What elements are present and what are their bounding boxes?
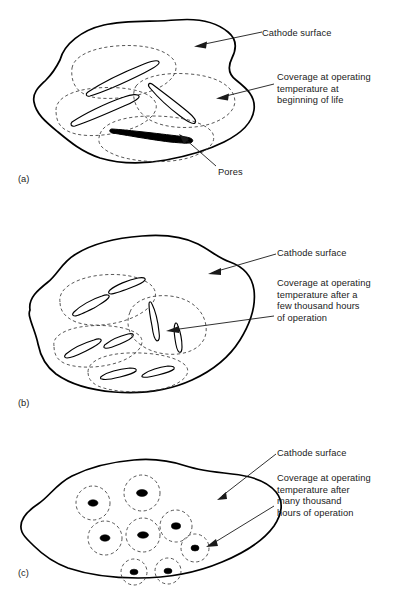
- panel-tag-a: (a): [18, 174, 29, 184]
- pore-dot: [171, 523, 180, 529]
- pore-dot: [137, 490, 148, 497]
- pore-dot: [130, 569, 138, 575]
- label-cathode-surface: Cathode surface: [277, 448, 346, 460]
- pore-dot: [164, 568, 172, 574]
- cathode-surface-figure: Cathode surface Coverage at operating te…: [0, 0, 401, 603]
- panel-a: Cathode surface Coverage at operating te…: [0, 0, 401, 200]
- label-pores: Pores: [218, 167, 243, 179]
- label-cathode-surface: Cathode surface: [262, 28, 331, 40]
- label-cathode-surface: Cathode surface: [277, 248, 346, 260]
- panel-tag-c: (c): [18, 568, 29, 578]
- label-coverage: Coverage at operating temperature after …: [277, 473, 371, 519]
- panel-tag-b: (b): [18, 398, 29, 408]
- pore-dot: [100, 535, 110, 541]
- label-coverage: Coverage at operating temperature after …: [277, 278, 371, 324]
- pore-dot: [191, 545, 199, 551]
- panel-c: Cathode surface Coverage at operating te…: [0, 420, 401, 603]
- cathode-surface-outline: [29, 235, 254, 392]
- panel-b: Cathode surface Coverage at operating te…: [0, 200, 401, 420]
- pore-dot: [88, 500, 98, 506]
- pore-dot: [138, 532, 149, 538]
- label-coverage: Coverage at operating temperature at beg…: [277, 72, 371, 107]
